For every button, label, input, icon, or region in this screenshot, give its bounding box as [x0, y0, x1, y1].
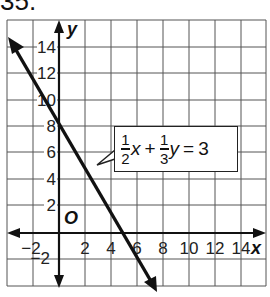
svg-text:2: 2 [47, 196, 56, 215]
svg-text:12: 12 [37, 64, 56, 83]
svg-text:2: 2 [80, 239, 89, 258]
svg-text:4: 4 [106, 239, 115, 258]
denominator: 3 [160, 151, 168, 166]
equation-callout: 1 2 x + 1 3 y = 3 [114, 126, 238, 172]
y-axis-up-arrow-icon [54, 20, 64, 33]
svg-text:8: 8 [47, 117, 56, 136]
denominator: 2 [121, 151, 129, 166]
x-axis-left-arrow-icon [7, 228, 20, 238]
plus-sign: + [145, 138, 156, 160]
x-axis-label: x [250, 238, 262, 258]
svg-text:14: 14 [37, 38, 56, 57]
variable-y: y [170, 138, 180, 160]
svg-text:4: 4 [47, 170, 56, 189]
svg-text:10: 10 [180, 239, 199, 258]
y-axis-label: y [66, 19, 78, 39]
rhs-value: 3 [198, 138, 209, 160]
line-arrow-up-icon [8, 37, 24, 54]
x-axis-right-arrow-icon [253, 228, 266, 238]
equals-sign: = [183, 138, 194, 160]
svg-text:6: 6 [47, 143, 56, 162]
numerator: 1 [121, 132, 129, 147]
variable-x: x [131, 138, 141, 160]
svg-text:14: 14 [232, 239, 251, 258]
fraction-one-half: 1 2 [121, 132, 130, 165]
fraction-one-third: 1 3 [160, 132, 169, 165]
numerator: 1 [160, 132, 168, 147]
svg-text:12: 12 [206, 239, 225, 258]
svg-text:8: 8 [158, 239, 167, 258]
svg-text:−2: −2 [21, 239, 40, 258]
origin-label: O [64, 208, 78, 228]
